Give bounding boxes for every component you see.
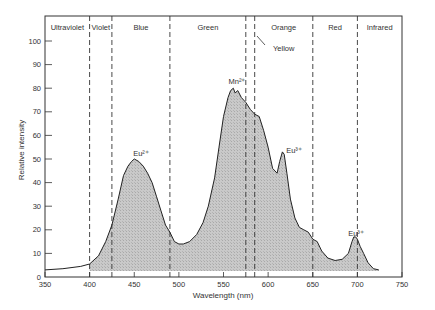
y-tick-label: 50 [33,155,41,164]
x-tick-label: 450 [128,280,141,289]
x-tick-label: 700 [351,280,364,289]
annotation-eu3-orange: Eu³⁺ [286,146,302,155]
spectrum-fill [90,88,379,271]
y-tick-label: 90 [33,60,41,69]
y-tick-label: 100 [28,37,41,46]
y-tick-label: 60 [33,131,41,140]
annotation-eu3-red: Eu³⁺ [348,229,364,238]
y-axis: 0102030405060708090100 [28,37,52,282]
region-label-red: Red [328,23,342,32]
annotation-mn2: Mn²⁺ [229,77,246,86]
x-tick-label: 550 [217,280,230,289]
y-tick-label: 30 [33,202,41,211]
y-tick-label: 40 [33,178,41,187]
y-tick-label: 0 [37,273,41,282]
emission-spectrum-chart: 350400450500550600650700750 010203040506… [0,0,435,310]
annotation-yellow: Yellow [273,44,295,53]
x-axis: 350400450500550600650700750 [39,272,409,289]
y-tick-label: 20 [33,225,41,234]
x-tick-label: 650 [306,280,319,289]
region-label-ultraviolet: Ultraviolet [51,23,85,32]
y-tick-label: 70 [33,107,41,116]
x-tick-label: 600 [262,280,275,289]
y-tick-label: 80 [33,84,41,93]
region-label-violet: Violet [91,23,111,32]
spectrum-area [90,88,379,271]
x-tick-label: 750 [396,280,409,289]
x-tick-label: 500 [173,280,186,289]
y-tick-label: 10 [33,249,41,258]
region-label-infrared: Infrared [367,23,393,32]
annotation-eu2: Eu²⁺ [133,149,149,158]
region-label-green: Green [197,23,218,32]
y-axis-label: Relative intensity [17,120,26,180]
region-label-blue: Blue [133,23,148,32]
yellow-leader-line [257,36,265,45]
x-axis-label: Wavelength (nm) [193,291,254,300]
region-labels: UltravioletVioletBlueGreenOrangeRedInfra… [51,23,393,32]
x-tick-label: 400 [83,280,96,289]
region-label-orange: Orange [271,23,296,32]
